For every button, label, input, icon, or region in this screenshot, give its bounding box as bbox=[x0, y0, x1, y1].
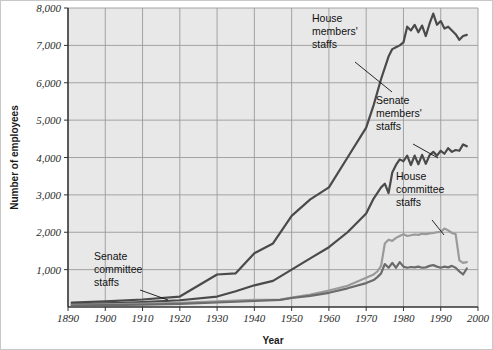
x-axis-tick-label: 1930 bbox=[206, 312, 229, 324]
annotation-line: House bbox=[312, 12, 343, 24]
chart-figure: 1,0002,0003,0004,0005,0006,0007,0008,000… bbox=[0, 0, 493, 350]
annotation-line: committee bbox=[396, 183, 445, 195]
y-axis-tick-label: 3,000 bbox=[35, 189, 61, 201]
x-axis-tick-label: 1960 bbox=[318, 312, 341, 324]
x-axis-tick-label: 1980 bbox=[392, 312, 415, 324]
y-axis-tick-label: 7,000 bbox=[36, 39, 61, 51]
x-axis-tick-label: 1910 bbox=[132, 312, 155, 324]
annotation-line: committee bbox=[94, 263, 143, 275]
y-axis-tick-label: 1,000 bbox=[36, 264, 61, 276]
x-axis-tick-label: 2000 bbox=[467, 312, 490, 324]
annotation-line: House bbox=[396, 170, 427, 182]
x-axis-tick-label: 1890 bbox=[57, 312, 80, 324]
annotation-line: staffs bbox=[376, 120, 401, 132]
x-axis-tick-label: 1920 bbox=[169, 312, 192, 324]
annotation-line: Senate bbox=[94, 250, 127, 262]
annotation-line: staffs bbox=[94, 276, 119, 288]
x-axis-tick-label: 1950 bbox=[281, 312, 304, 324]
annotation-line: Senate bbox=[376, 94, 409, 106]
x-axis-title: Year bbox=[262, 335, 283, 346]
annotation-line: staffs bbox=[312, 38, 337, 50]
annotation-line: staffs bbox=[396, 196, 421, 208]
x-axis-tick-label: 1990 bbox=[430, 312, 453, 324]
annotation-line: members' bbox=[312, 25, 358, 37]
staff-growth-line-chart: 1,0002,0003,0004,0005,0006,0007,0008,000… bbox=[0, 0, 493, 350]
x-axis-tick-label: 1940 bbox=[243, 312, 266, 324]
y-axis-tick-label: 5,000 bbox=[36, 114, 61, 126]
y-axis-title: Number of employees bbox=[9, 105, 20, 210]
y-axis-tick-label: 6,000 bbox=[36, 77, 61, 89]
x-axis-tick-label: 1900 bbox=[94, 312, 117, 324]
annotation-line: members' bbox=[376, 107, 422, 119]
y-axis-tick-label: 8,000 bbox=[36, 2, 61, 14]
x-axis-tick-label: 1970 bbox=[355, 312, 378, 324]
y-axis-tick-label: 2,000 bbox=[36, 226, 61, 238]
y-axis-tick-label: 4,000 bbox=[36, 152, 61, 164]
